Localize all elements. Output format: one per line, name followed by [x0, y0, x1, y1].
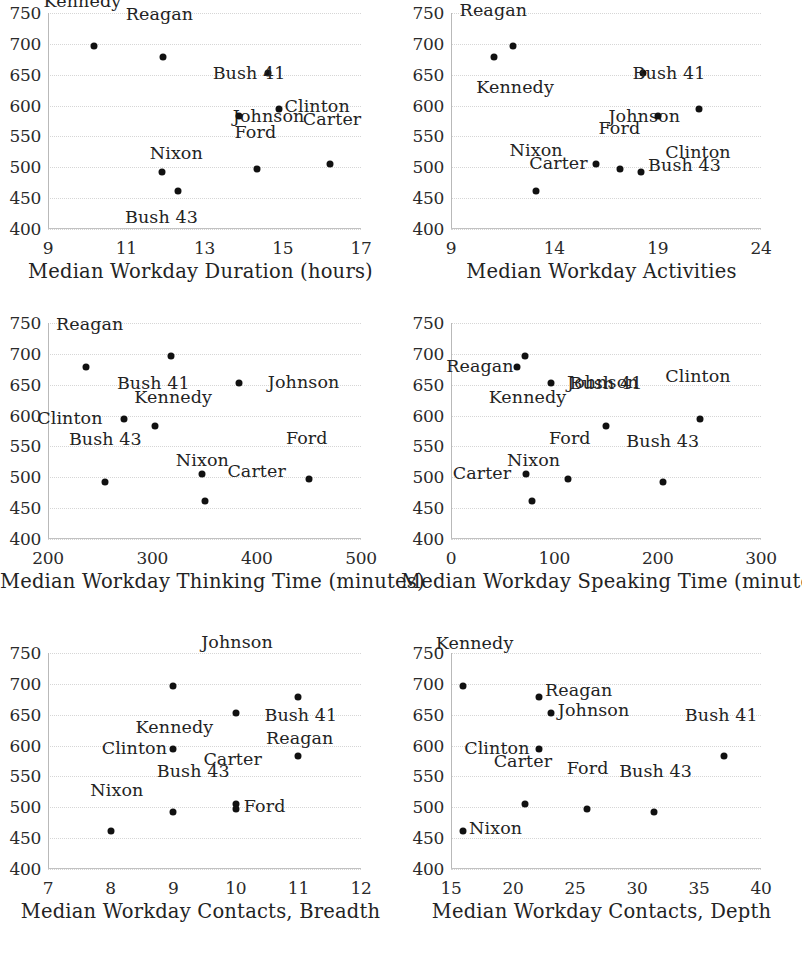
data-point-label: Nixon — [90, 783, 143, 801]
y-axis-tick-label: 400 — [9, 531, 41, 548]
data-point — [491, 53, 498, 60]
data-point — [617, 166, 624, 173]
y-axis-tick-label: 550 — [9, 438, 41, 455]
data-point — [102, 478, 109, 485]
data-point-label: Bush 41 — [264, 707, 337, 725]
data-point — [536, 693, 543, 700]
y-axis-tick-label: 550 — [9, 768, 41, 785]
x-axis-tick-label: 11 — [288, 880, 309, 897]
data-point-label: Kennedy — [489, 389, 567, 407]
data-point — [523, 471, 530, 478]
y-axis-tick-label: 400 — [412, 531, 444, 548]
gridline — [451, 75, 761, 76]
data-point-label: Carter — [494, 753, 553, 771]
data-point — [175, 188, 182, 195]
y-axis-tick-label: 700 — [9, 675, 41, 692]
data-point — [720, 753, 727, 760]
x-axis-tick-label: 19 — [647, 240, 668, 257]
y-axis-tick-label: 600 — [412, 407, 444, 424]
data-point — [584, 806, 591, 813]
data-point — [510, 42, 517, 49]
data-point-label: Carter — [453, 465, 512, 483]
data-point-label: Bush 41 — [570, 375, 643, 393]
gridline — [451, 807, 761, 808]
data-point — [168, 352, 175, 359]
scatter-plot-grid: 750700650600550500450400KennedyReaganJoh… — [0, 0, 802, 955]
data-point — [532, 188, 539, 195]
x-axis-line — [451, 228, 761, 229]
x-axis-tick-label: 500 — [345, 550, 377, 567]
x-axis-tick-label: 0 — [446, 550, 457, 567]
x-axis-tick-label: 9 — [446, 240, 457, 257]
y-axis-tick-label: 550 — [412, 128, 444, 145]
y-axis-line — [451, 13, 452, 229]
data-point — [235, 380, 242, 387]
gridline — [451, 416, 761, 417]
y-axis-tick-label: 650 — [9, 706, 41, 723]
data-point — [199, 471, 206, 478]
data-point — [564, 476, 571, 483]
data-point-label: Bush 41 — [685, 707, 758, 725]
data-point-label: Bush 41 — [117, 375, 190, 393]
y-axis-tick-label: 450 — [412, 830, 444, 847]
y-axis-tick-label: 450 — [9, 190, 41, 207]
data-point — [254, 166, 261, 173]
gridline — [48, 539, 361, 540]
data-point — [548, 710, 555, 717]
y-axis-tick-label: 400 — [9, 221, 41, 238]
y-axis-tick-label: 550 — [9, 128, 41, 145]
data-point-label: Ford — [599, 120, 641, 138]
gridline — [451, 323, 761, 324]
gridline — [48, 684, 361, 685]
y-axis-tick-label: 450 — [412, 190, 444, 207]
data-point-label: Ford — [549, 430, 591, 448]
gridline — [48, 167, 361, 168]
y-axis-tick-label: 500 — [412, 159, 444, 176]
y-axis-tick-label: 750 — [9, 645, 41, 662]
y-axis-tick-label: 700 — [9, 345, 41, 362]
y-axis-tick-label: 600 — [9, 737, 41, 754]
gridline — [451, 446, 761, 447]
y-axis-tick-label: 400 — [412, 861, 444, 878]
y-axis-tick-label: 750 — [9, 315, 41, 332]
data-point — [235, 113, 242, 120]
x-axis-tick-label: 17 — [350, 240, 371, 257]
y-axis-tick-label: 650 — [412, 706, 444, 723]
data-point-label: Kennedy — [136, 719, 214, 737]
data-point — [528, 498, 535, 505]
y-axis-tick-label: 500 — [9, 159, 41, 176]
x-axis-tick-label: 9 — [43, 240, 54, 257]
data-point-label: Ford — [286, 430, 328, 448]
y-axis-tick-label: 400 — [9, 861, 41, 878]
scatter-panel-2: 750700650600550500450400KennedyReaganJoh… — [401, 0, 802, 310]
gridline — [451, 539, 761, 540]
data-point — [592, 161, 599, 168]
gridline — [48, 354, 361, 355]
gridline — [451, 106, 761, 107]
data-point-label: Reagan — [56, 316, 123, 334]
x-axis-tick-label: 8 — [105, 880, 116, 897]
gridline — [48, 75, 361, 76]
gridline — [451, 354, 761, 355]
y-axis-tick-label: 750 — [9, 5, 41, 22]
data-point-label: Bush 41 — [213, 65, 286, 83]
data-point-label: Nixon — [507, 453, 560, 471]
data-point — [82, 363, 89, 370]
y-axis-tick-label: 500 — [412, 799, 444, 816]
data-point-label: Carter — [227, 463, 286, 481]
data-point-label: Ford — [235, 124, 277, 142]
y-axis-tick-label: 450 — [9, 830, 41, 847]
x-axis-tick-label: 14 — [544, 240, 565, 257]
data-point-label: Carter — [303, 111, 362, 129]
x-axis-title: Median Workday Activities — [401, 262, 802, 282]
y-axis-tick-label: 550 — [412, 438, 444, 455]
data-point-label: Clinton — [37, 411, 102, 429]
data-point — [275, 106, 282, 113]
y-axis-line — [451, 653, 452, 869]
x-axis-tick-label: 11 — [116, 240, 137, 257]
x-axis-tick-label: 24 — [750, 240, 771, 257]
y-axis-tick-label: 750 — [412, 315, 444, 332]
data-point — [659, 478, 666, 485]
data-point-label: Nixon — [510, 143, 563, 161]
y-axis-tick-label: 500 — [9, 469, 41, 486]
